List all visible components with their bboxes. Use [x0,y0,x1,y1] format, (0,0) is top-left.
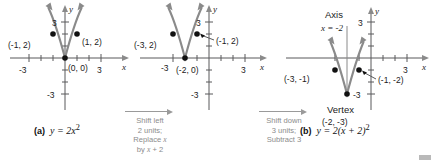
leader-arrow-c [362,71,367,76]
leader-arrow-b [200,34,205,39]
point-label-b-2: (-1, 2) [216,36,239,46]
x-axis-label-c: x [421,62,426,72]
y-tick-label-a-3: 3 [52,18,57,28]
parabola-shift-figure: (-1, 2) (1, 2) (0, 0) -3 3 3 -3 y x (a)y… [0,0,434,165]
y-axis-label-c: y [374,6,379,16]
y-axis-arrow-a [62,5,68,12]
connector-arrow-bar-2 [259,111,303,112]
y-tick-label-b--3: -3 [191,90,199,100]
x-tick-label-c-3: 3 [403,65,408,75]
x-axis-arrow-a [122,55,129,61]
point-a-vertex [62,55,68,61]
connector-1-line-3-var: x [163,135,166,144]
y-tick-label-c--3: -3 [353,90,361,100]
y-axis-label-b: y [212,4,217,14]
point-label-a-1: (-1, 2) [8,40,31,50]
connector-1-line-4-suffix: + 2 [150,145,163,154]
point-b-1 [170,31,176,37]
axis-of-symmetry-equation-c: x = -2 [320,23,344,33]
connector-1-line-4: by x + 2 [122,145,178,155]
x-tick-label-a--3: -3 [19,65,27,75]
caption-tag-a: (a) [34,126,45,136]
axis-of-symmetry-label-c: Axis [325,9,343,20]
y-axis-arrow-b [206,5,212,12]
caption-exponent-a: 2 [76,123,80,132]
connector-1-line-4-prefix: by [137,145,147,154]
x-axis-arrow-c [422,55,429,61]
corner-swatch [419,155,431,160]
connector-shift-down: Shift down 3 units; Subtract 3 [256,108,312,145]
connector-arrow-2 [256,108,312,115]
x-tick-label-b-3: 3 [241,65,246,75]
connector-arrow-head-2 [301,109,307,115]
y-tick-label-b-3: 3 [196,18,201,28]
y-tick-label-a--3: -3 [47,90,55,100]
connector-shift-left: Shift left 2 units; Replace x by x + 2 [122,108,178,154]
y-axis-arrow-c [368,7,374,14]
x-tick-label-b--3: -3 [161,63,169,73]
y-tick-label-c-3: 3 [358,18,363,28]
x-axis-arrow-b [260,55,267,61]
connector-1-line-3: Replace x [122,135,178,145]
vertex-coords-c: (-2, -3) [322,117,348,127]
point-a-2 [74,31,80,37]
connector-1-line-2: 2 units; [122,126,178,136]
point-b-vertex [182,55,188,61]
point-label-b-vertex: (-2, 0) [176,65,199,75]
point-label-c-2: (-1, -2) [378,75,404,85]
connector-2-line-3: Subtract 3 [256,135,312,145]
point-c-1 [332,67,338,73]
point-label-c-1: (-3, -1) [284,74,310,84]
panel-a: (-1, 2) (1, 2) (0, 0) -3 3 3 -3 y x (a)y… [0,0,132,140]
y-axis-label-a: y [68,4,73,14]
connector-2-line-2: 3 units; [256,126,312,136]
point-c-2 [356,67,362,73]
point-label-a-vertex: (0, 0) [68,63,88,73]
point-label-b-1: (-3, 2) [134,40,157,50]
connector-arrow-1 [122,108,178,115]
vertex-label-c: Vertex [327,104,354,115]
connector-arrow-head-1 [167,109,173,115]
point-a-1 [50,31,56,37]
x-tick-label-a-3: 3 [97,65,102,75]
connector-1-line-1: Shift left [122,116,178,126]
point-c-vertex [344,91,350,97]
connector-1-line-3-prefix: Replace [133,135,163,144]
point-b-2 [194,31,200,37]
caption-a: (a)y = 2x2 [34,123,80,136]
x-axis-label-b: x [259,62,264,72]
point-label-a-2: (1, 2) [82,37,102,47]
x-axis-label-a: x [121,62,126,72]
connector-2-line-1: Shift down [256,116,312,126]
caption-equation-a: y = 2x [50,125,76,136]
connector-arrow-bar-1 [125,111,169,112]
